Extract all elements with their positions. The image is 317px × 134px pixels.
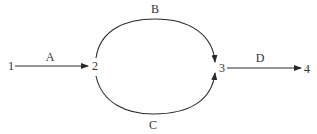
edge-a-label: A bbox=[46, 50, 55, 64]
node-2: 2 bbox=[92, 59, 98, 73]
edge-c-label: C bbox=[149, 118, 157, 132]
node-1: 1 bbox=[8, 59, 14, 73]
node-3: 3 bbox=[219, 61, 225, 75]
network-diagram: A B C D 1 2 3 4 bbox=[0, 0, 317, 134]
node-4: 4 bbox=[304, 62, 310, 76]
edge-b-arc bbox=[96, 19, 215, 62]
edge-a: A bbox=[15, 50, 88, 66]
edge-c: C bbox=[96, 73, 215, 132]
edge-b: B bbox=[96, 2, 215, 62]
edge-c-arc bbox=[96, 73, 215, 114]
edge-d-label: D bbox=[256, 51, 265, 65]
edge-b-label: B bbox=[151, 2, 159, 16]
edge-d: D bbox=[227, 51, 301, 68]
